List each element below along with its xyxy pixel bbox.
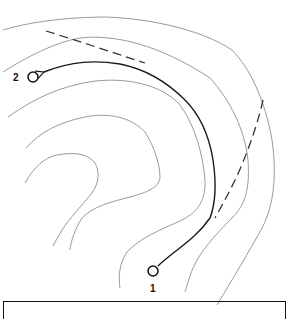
end-point-marker bbox=[28, 72, 38, 82]
start-point-marker bbox=[148, 266, 158, 276]
dashed-line-upper bbox=[46, 31, 145, 63]
dashed-line-right bbox=[215, 100, 263, 218]
contour-line-4 bbox=[26, 115, 160, 250]
contour-map: 1 2 bbox=[0, 0, 289, 319]
legend-box bbox=[3, 301, 286, 319]
route-line bbox=[44, 62, 215, 266]
contour-line-5 bbox=[25, 154, 98, 246]
end-point-label: 2 bbox=[13, 72, 19, 83]
contour-line-3 bbox=[8, 80, 205, 288]
start-point-label: 1 bbox=[150, 283, 156, 294]
